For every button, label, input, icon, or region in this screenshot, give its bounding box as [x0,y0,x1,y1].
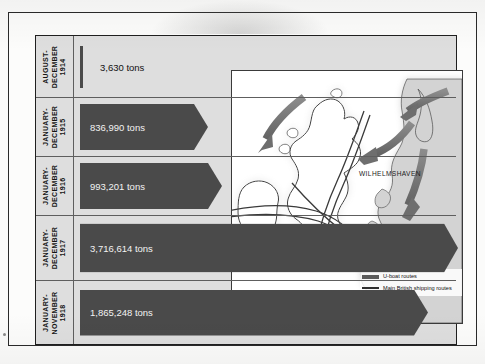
row-bar-area: 1,865,248 tons [74,281,456,344]
bar-1917: 3,716,614 tons [80,224,458,273]
row-date-label-1917: JANUARY- DECEMBER 1917 [36,216,74,280]
bar-1918: 1,865,248 tons [80,290,428,336]
bar-value-label-1916: 993,201 tons [80,181,145,192]
row-bar-area: 836,990 tons [74,98,456,156]
row-bar-area: 3,630 tons [74,36,456,97]
chart-panel: WILHELMSHAVEN ZEEBRUGGE U-boat routes Ma… [35,35,457,345]
date-line-2: DECEMBER [50,227,59,269]
date-line-2: DECEMBER [50,106,59,148]
row-date-label-1918: JANUARY- NOVEMBER 1918 [36,281,74,344]
table-row: JANUARY- DECEMBER 1915 836,990 tons [36,98,456,157]
scan-speck [3,333,6,336]
bar-value-label-1917: 3,716,614 tons [80,243,153,254]
bar-value-label-1915: 836,990 tons [80,122,145,133]
bar-1916: 993,201 tons [80,163,222,209]
date-line-3: 1915 [59,106,68,148]
row-date-label-1914: AUGUST- DECEMBER 1914 [36,36,74,97]
row-bar-area: 993,201 tons [74,157,456,215]
date-line-1: JANUARY- [42,165,51,207]
date-line-1: JANUARY- [42,291,51,334]
date-line-2: DECEMBER [50,45,59,87]
date-line-3: 1917 [59,227,68,269]
date-label-text: JANUARY- NOVEMBER 1918 [42,291,68,334]
table-row: AUGUST- DECEMBER 1914 3,630 tons [36,36,456,98]
row-date-label-1916: JANUARY- DECEMBER 1916 [36,157,74,215]
row-date-label-1915: JANUARY- DECEMBER 1915 [36,98,74,156]
page-frame: WILHELMSHAVEN ZEEBRUGGE U-boat routes Ma… [8,12,477,346]
date-line-3: 1914 [59,45,68,87]
table-row: JANUARY- DECEMBER 1916 993,201 tons [36,157,456,216]
date-label-text: JANUARY- DECEMBER 1915 [42,106,68,148]
date-line-3: 1918 [59,291,68,334]
bar-value-label-1914: 3,630 tons [90,61,144,72]
table-row: JANUARY- DECEMBER 1917 3,716,614 tons [36,216,456,281]
bar-1914 [80,46,83,88]
date-line-1: AUGUST- [42,45,51,87]
date-label-text: AUGUST- DECEMBER 1914 [42,45,68,87]
table-row: JANUARY- NOVEMBER 1918 1,865,248 tons [36,281,456,344]
date-line-2: NOVEMBER [50,291,59,334]
date-line-1: JANUARY- [42,106,51,148]
bar-1915: 836,990 tons [80,104,208,150]
row-bar-area: 3,716,614 tons [74,216,456,280]
bar-value-label-1918: 1,865,248 tons [80,307,153,318]
date-label-text: JANUARY- DECEMBER 1917 [42,227,68,269]
date-line-1: JANUARY- [42,227,51,269]
date-label-text: JANUARY- DECEMBER 1916 [42,165,68,207]
date-line-2: DECEMBER [50,165,59,207]
date-line-3: 1916 [59,165,68,207]
